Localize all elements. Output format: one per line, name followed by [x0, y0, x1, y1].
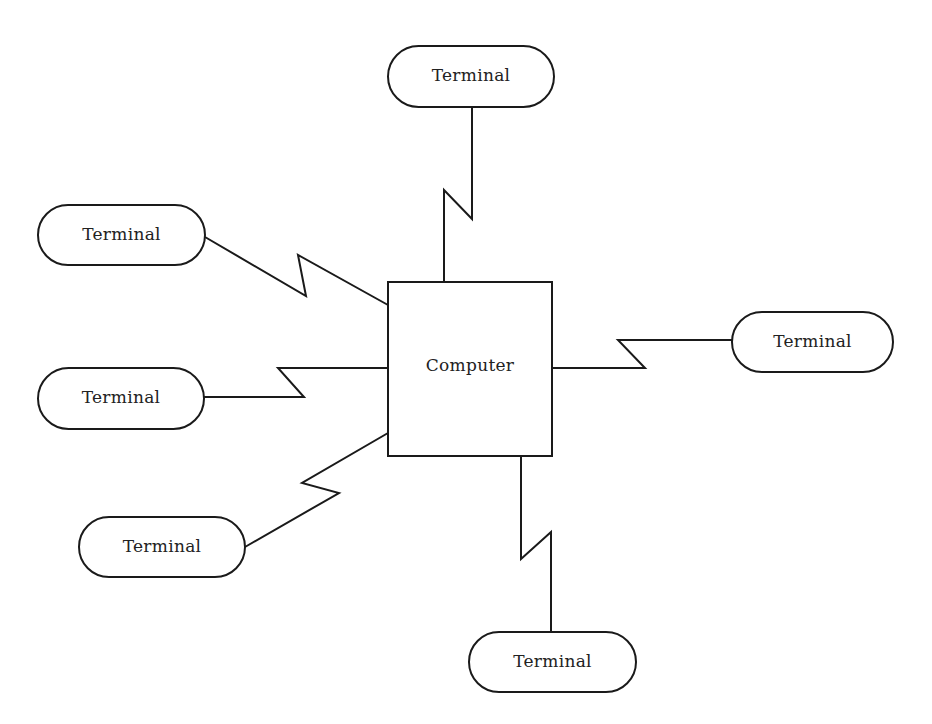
link-top-zigzag-line	[444, 107, 472, 282]
terminal-node-top: Terminal	[388, 46, 554, 107]
terminal-node-middle-left: Terminal	[38, 368, 204, 429]
terminal-label: Terminal	[513, 651, 592, 671]
star-network-diagram: Computer TerminalTerminalTerminalTermina…	[0, 0, 932, 724]
link-middle-left-zigzag-line	[204, 368, 388, 397]
terminal-label: Terminal	[123, 536, 202, 556]
link-right-zigzag-line	[552, 340, 732, 368]
link-upper-left-zigzag-line	[205, 237, 388, 305]
terminal-node-bottom-left: Terminal	[79, 517, 245, 577]
terminal-node-right: Terminal	[732, 312, 893, 372]
computer-label: Computer	[426, 355, 515, 375]
terminal-label: Terminal	[432, 65, 511, 85]
link-bottom-zigzag-line	[521, 456, 551, 632]
terminal-label: Terminal	[82, 224, 161, 244]
terminal-node-upper-left: Terminal	[38, 205, 205, 265]
link-bottom-left-zigzag-line	[245, 433, 388, 547]
terminal-label: Terminal	[82, 387, 161, 407]
computer-node: Computer	[388, 282, 552, 456]
terminal-label: Terminal	[773, 331, 852, 351]
terminal-node-bottom: Terminal	[469, 632, 636, 692]
